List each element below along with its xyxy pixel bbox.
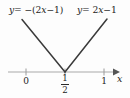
equation-label-left: y= −(2x−1) (9, 5, 63, 15)
equation-label-right: y= 2x−1 (77, 5, 117, 15)
tick-label-0: 0 (20, 76, 32, 86)
equation-right-tail: −1 (103, 4, 116, 15)
curve-left-branch (22, 20, 65, 73)
graph-figure: y= −(2x−1) y= 2x−1 0 1 2 1 x (0, 0, 130, 98)
x-axis-label: x (117, 73, 122, 84)
equation-left-operator: = −(2 (14, 4, 41, 15)
curve-right-branch (65, 19, 107, 72)
tick-label-1: 1 (98, 76, 110, 86)
fraction-one-half: 1 2 (61, 74, 69, 94)
tick-label-half: 1 2 (57, 74, 73, 95)
equation-right-operator: = 2 (82, 4, 98, 15)
fraction-numerator: 1 (61, 74, 69, 83)
equation-left-tail: −1) (46, 4, 63, 15)
fraction-denominator: 2 (61, 85, 69, 94)
